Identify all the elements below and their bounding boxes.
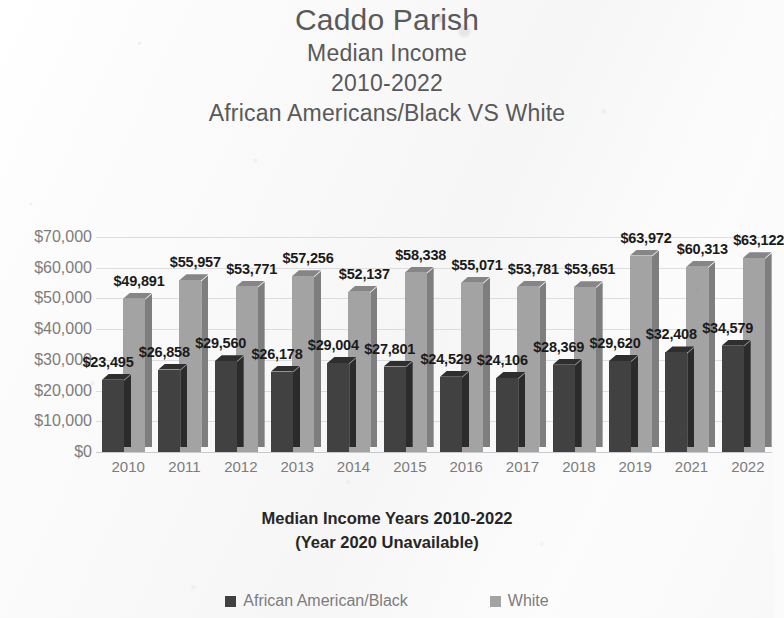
x-axis-tick-label: 2017 [506, 458, 539, 475]
x-axis-tick-label: 2016 [449, 458, 482, 475]
data-label: $24,529 [420, 351, 471, 367]
x-axis-tick-label: 2012 [224, 458, 257, 475]
data-label: $53,651 [564, 261, 615, 277]
y-axis-tick-label: $10,000 [6, 412, 92, 430]
data-label: $53,781 [508, 261, 559, 277]
bar-side-face [462, 372, 469, 447]
data-label: $63,122 [733, 232, 784, 248]
x-axis-tick-label: 2014 [337, 458, 370, 475]
bar-side-face [744, 341, 751, 447]
bar-side-face [124, 375, 131, 447]
bar-front-face [553, 365, 575, 452]
bar-front-face [102, 380, 124, 452]
y-axis-tick-label: $30,000 [6, 351, 92, 369]
bar-side-face [652, 251, 659, 447]
bar-african-american-black-2022 [722, 346, 744, 452]
bar-side-face [201, 275, 208, 447]
data-label: $29,620 [589, 335, 640, 351]
bar-african-american-black-2015 [384, 367, 406, 452]
data-label: $52,137 [339, 266, 390, 282]
bar-side-face [180, 365, 187, 447]
bar-front-face [215, 361, 237, 452]
bar-front-face [440, 377, 462, 452]
data-label: $32,408 [646, 326, 697, 342]
legend-item[interactable]: African American/Black [225, 592, 408, 610]
bar-front-face [609, 361, 631, 452]
bar-side-face [575, 360, 582, 447]
bar-side-face [145, 294, 152, 447]
legend-label: White [508, 592, 549, 610]
legend-swatch-icon [225, 596, 236, 607]
data-label: $23,495 [82, 354, 133, 370]
bar-side-face [349, 358, 356, 447]
data-label: $55,071 [451, 257, 502, 273]
bar-african-american-black-2011 [158, 370, 180, 452]
bar-african-american-black-2021 [665, 352, 687, 452]
x-axis-tick-label: 2021 [675, 458, 708, 475]
data-label: $57,256 [282, 250, 333, 266]
x-axis-tick-label: 2011 [168, 458, 200, 475]
data-label: $34,579 [702, 320, 753, 336]
x-axis-baseline [96, 452, 772, 453]
y-axis-tick-label: $70,000 [6, 228, 92, 246]
chart-legend: African American/BlackWhite [0, 592, 774, 610]
x-axis-title: Median Income Years 2010-2022 (Year 2020… [0, 506, 774, 554]
data-label: $29,560 [195, 335, 246, 351]
bar-front-face [384, 367, 406, 452]
data-label: $29,004 [308, 337, 359, 353]
data-label: $63,972 [620, 230, 671, 246]
bar-front-face [158, 370, 180, 452]
bar-front-face [327, 363, 349, 452]
bar-side-face [708, 262, 715, 447]
bar-side-face [314, 271, 321, 447]
bar-side-face [596, 282, 603, 447]
data-label: $58,338 [395, 247, 446, 263]
data-label: $49,891 [113, 273, 164, 289]
x-axis-tick-label: 2010 [111, 458, 144, 475]
data-label: $27,801 [364, 341, 415, 357]
bar-side-face [370, 287, 377, 447]
bar-african-american-black-2017 [496, 378, 518, 452]
data-label: $24,106 [477, 352, 528, 368]
y-axis-tick-label: $0 [6, 443, 92, 461]
bar-african-american-black-2010 [102, 380, 124, 452]
x-axis-tick-label: 2019 [618, 458, 651, 475]
bar-side-face [631, 356, 638, 447]
x-axis-tick-label: 2018 [562, 458, 595, 475]
y-axis-tick-label: $40,000 [6, 320, 92, 338]
legend-swatch-icon [490, 596, 501, 607]
y-axis-tick-label: $20,000 [6, 382, 92, 400]
x-axis-tick-label: 2015 [393, 458, 426, 475]
bar-side-face [406, 362, 413, 447]
bar-side-face [765, 253, 772, 447]
bar-african-american-black-2016 [440, 377, 462, 452]
bar-side-face [539, 282, 546, 447]
x-axis-title-line-2: (Year 2020 Unavailable) [0, 530, 774, 554]
bar-front-face [665, 352, 687, 452]
legend-label: African American/Black [243, 592, 408, 610]
bar-side-face [237, 356, 244, 447]
data-label: $26,178 [251, 346, 302, 362]
data-label: $55,957 [170, 254, 221, 270]
bar-front-face [722, 346, 744, 452]
bar-african-american-black-2012 [215, 361, 237, 452]
bar-front-face [496, 378, 518, 452]
y-axis-tick-label: $60,000 [6, 259, 92, 277]
x-axis-tick-label: 2013 [280, 458, 313, 475]
data-label: $60,313 [677, 241, 728, 257]
bar-side-face [258, 282, 265, 447]
bar-side-face [518, 373, 525, 447]
y-axis-tick-label: $50,000 [6, 289, 92, 307]
bar-side-face [687, 347, 694, 447]
legend-item[interactable]: White [490, 592, 549, 610]
data-label: $26,858 [139, 344, 190, 360]
bar-african-american-black-2019 [609, 361, 631, 452]
bar-african-american-black-2014 [327, 363, 349, 452]
bar-african-american-black-2013 [271, 372, 293, 452]
bar-side-face [293, 367, 300, 447]
x-axis-tick-label: 2022 [731, 458, 764, 475]
x-axis-title-line-1: Median Income Years 2010-2022 [0, 506, 774, 530]
data-label: $53,771 [226, 261, 277, 277]
bar-african-american-black-2018 [553, 365, 575, 452]
bar-front-face [271, 372, 293, 452]
